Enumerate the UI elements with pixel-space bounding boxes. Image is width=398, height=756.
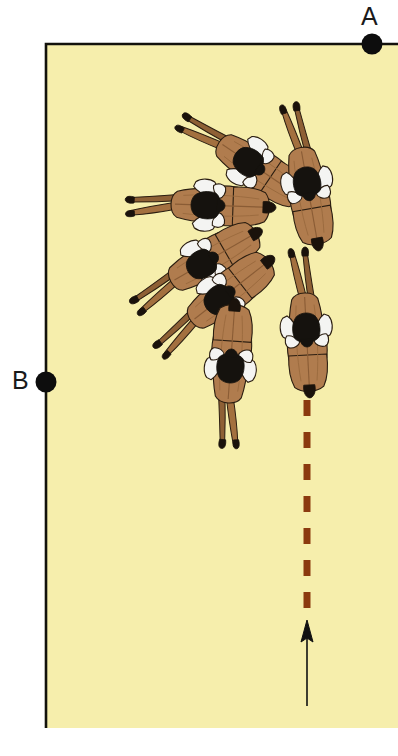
- point-a-label: A: [361, 4, 378, 29]
- diagram-svg: .p-body { fill:#B07C4E; stroke:#2a1d10; …: [0, 0, 398, 756]
- point-b-label: B: [12, 368, 29, 393]
- figure-canvas: .p-body { fill:#B07C4E; stroke:#2a1d10; …: [0, 0, 398, 756]
- point-a-marker: [362, 34, 383, 55]
- point-b-marker: [36, 372, 57, 393]
